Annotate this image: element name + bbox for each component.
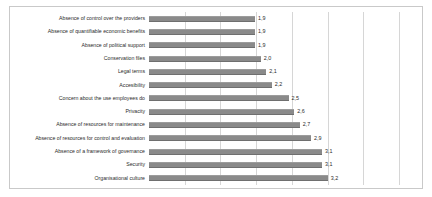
- bar[interactable]: [149, 175, 328, 181]
- bar-row[interactable]: Absence of resources for control and eva…: [149, 132, 417, 145]
- value-label: 3,2: [331, 176, 339, 181]
- category-label: Accesibility: [119, 83, 145, 88]
- category-label: Security: [126, 162, 145, 167]
- value-label: 2,1: [269, 69, 277, 74]
- bar[interactable]: [149, 16, 255, 22]
- bar-row[interactable]: Security3,1: [149, 158, 417, 171]
- bar[interactable]: [149, 149, 322, 155]
- bar[interactable]: [149, 82, 272, 88]
- value-label: 2,7: [303, 122, 311, 127]
- value-label: 2,6: [297, 109, 305, 114]
- category-label: Absence of political support: [82, 43, 145, 48]
- bar[interactable]: [149, 122, 300, 128]
- category-label: Legal terms: [118, 69, 145, 74]
- value-label: 1,9: [258, 43, 266, 48]
- category-label: Absence of resources for control and eva…: [35, 136, 145, 141]
- category-label: Organisational culture: [95, 176, 145, 181]
- bar-row[interactable]: Organisational culture3,2: [149, 172, 417, 185]
- bar[interactable]: [149, 29, 255, 35]
- category-label: Absence of quantifiable economic benefit…: [48, 29, 145, 34]
- category-label: Absence of resources for maintenance: [56, 122, 145, 127]
- bar-row[interactable]: Absence of a framework of governance3,1: [149, 145, 417, 158]
- value-label: 2,5: [292, 96, 300, 101]
- bar[interactable]: [149, 109, 294, 115]
- value-label: 1,9: [258, 29, 266, 34]
- category-label: Absence of a framework of governance: [55, 149, 145, 154]
- bar[interactable]: [149, 135, 311, 141]
- value-label: 2,9: [314, 136, 322, 141]
- bar-row[interactable]: Conservation files2,0: [149, 52, 417, 65]
- value-label: 2,0: [264, 56, 272, 61]
- bar-row[interactable]: Absence of political support1,9: [149, 39, 417, 52]
- bar[interactable]: [149, 56, 261, 62]
- bar-row[interactable]: Absence of resources for maintenance2,7: [149, 118, 417, 131]
- plot-area: Absence of control over the providers1,9…: [149, 12, 417, 185]
- value-label: 1,9: [258, 16, 266, 21]
- category-label: Conservation files: [104, 56, 145, 61]
- bar-row[interactable]: Legal terms2,1: [149, 65, 417, 78]
- category-label: Absence of control over the providers: [59, 16, 145, 21]
- bar-rows: Absence of control over the providers1,9…: [149, 12, 417, 185]
- bar-row[interactable]: Absence of quantifiable economic benefit…: [149, 25, 417, 38]
- category-label: Concern about the use employees do: [59, 96, 145, 101]
- chart-frame: Absence of control over the providers1,9…: [9, 6, 423, 189]
- bar-row[interactable]: Concern about the use employees do2,5: [149, 92, 417, 105]
- value-label: 3,1: [325, 149, 333, 154]
- category-label: Privacity: [125, 109, 145, 114]
- bar-row[interactable]: Privacity2,6: [149, 105, 417, 118]
- bar-row[interactable]: Accesibility2,2: [149, 79, 417, 92]
- bar[interactable]: [149, 162, 322, 168]
- value-label: 2,2: [275, 82, 283, 87]
- bar-row[interactable]: Absence of control over the providers1,9: [149, 12, 417, 25]
- bar[interactable]: [149, 42, 255, 48]
- value-label: 3,1: [325, 162, 333, 167]
- bar[interactable]: [149, 69, 266, 75]
- bar[interactable]: [149, 95, 289, 101]
